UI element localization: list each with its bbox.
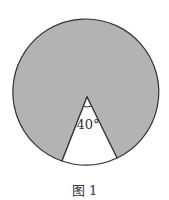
circle-sector-diagram: 40°	[0, 0, 169, 200]
figure-caption: 图 1	[0, 180, 169, 199]
angle-label: 40°	[76, 117, 99, 132]
